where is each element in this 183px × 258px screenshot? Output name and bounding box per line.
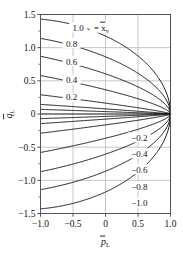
x-tick-label: 1.0 <box>165 219 177 229</box>
x-tick-label: 0.5 <box>132 219 144 229</box>
y-tick-label: 0.5 <box>24 76 36 86</box>
curve-label-0.4: 0.4 <box>66 75 78 85</box>
curve-label-0.2: 0.2 <box>66 92 77 102</box>
y-tick-label: 0 <box>31 109 36 119</box>
y-tick-label: −1.5 <box>18 209 35 219</box>
curve-label--0.2: −0.2 <box>131 133 147 143</box>
curve-label-0.6: 0.6 <box>66 57 78 67</box>
y-tick-label: −0.5 <box>18 143 35 153</box>
y-axis-title: qL <box>3 109 15 119</box>
x-tick-label: −0.5 <box>64 219 81 229</box>
x-axis-title: pL <box>100 236 110 248</box>
line-chart: −1.0−0.500.51.01.51.00.50−0.5−1.0−1.51.0… <box>0 0 183 258</box>
y-tick-label: 1.0 <box>24 43 36 53</box>
x-tick-label: −1.0 <box>32 219 49 229</box>
curve-label--0.6: −0.6 <box>131 165 148 175</box>
y-tick-label: −1.0 <box>18 176 35 186</box>
curve-label-0.8: 0.8 <box>66 39 78 49</box>
y-tick-label: 1.5 <box>24 10 36 20</box>
curve-label--0.4: −0.4 <box>131 149 148 159</box>
y-axis-title-text: qL <box>3 109 15 118</box>
curve-label--0.8: −0.8 <box>131 182 148 192</box>
chart-container: −1.0−0.500.51.01.51.00.50−0.5−1.0−1.51.0… <box>0 0 183 258</box>
x-axis-title-text: pL <box>100 236 110 248</box>
curve-label-1.0: 1.0 <box>73 23 85 33</box>
x-tick-label: 0 <box>103 219 108 229</box>
legend-annotation: = xv <box>90 21 116 34</box>
curve-label--1.0: −1.0 <box>131 198 148 208</box>
